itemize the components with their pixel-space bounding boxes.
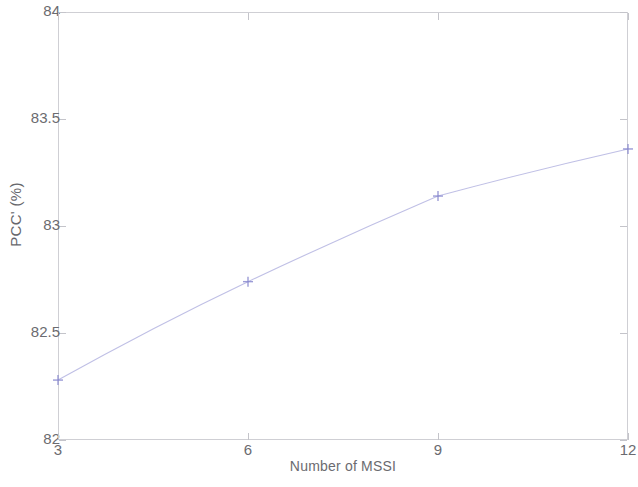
y-axis-title-text: PCC' (%) xyxy=(7,182,24,246)
data-point-marker xyxy=(243,277,253,287)
series-markers-pcc xyxy=(53,144,633,385)
y-tick-mark xyxy=(59,12,66,13)
y-tick-label: 83 xyxy=(43,217,60,232)
data-point-marker xyxy=(53,375,63,385)
x-tick-label: 3 xyxy=(54,442,62,457)
series-line-pcc xyxy=(58,149,628,380)
y-tick-mark-right xyxy=(620,12,627,13)
x-tick-mark xyxy=(438,433,439,440)
y-axis-title: PCC' (%) xyxy=(0,0,30,428)
x-tick-mark-top xyxy=(248,13,249,20)
x-tick-label: 9 xyxy=(434,442,442,457)
y-tick-mark-right xyxy=(620,119,627,120)
y-tick-label: 82.5 xyxy=(31,324,60,339)
x-tick-label: 6 xyxy=(244,442,252,457)
y-tick-mark-right xyxy=(620,226,627,227)
y-tick-mark xyxy=(59,333,66,334)
x-tick-mark-top xyxy=(628,13,629,20)
data-point-marker xyxy=(433,191,443,201)
y-tick-mark-right xyxy=(620,333,627,334)
series-line xyxy=(58,149,628,380)
data-point-marker xyxy=(623,144,633,154)
chart-figure: PCC' (%) 8282.58383.584 36912 Number of … xyxy=(0,0,638,487)
x-tick-mark xyxy=(58,433,59,440)
y-tick-mark xyxy=(59,226,66,227)
x-tick-mark xyxy=(248,433,249,440)
data-plot xyxy=(58,12,628,440)
x-tick-mark-top xyxy=(58,13,59,20)
y-tick-label: 83.5 xyxy=(31,110,60,125)
x-tick-mark xyxy=(628,433,629,440)
x-axis-title: Number of MSSI xyxy=(58,458,628,474)
y-tick-mark xyxy=(59,119,66,120)
x-tick-label: 12 xyxy=(620,442,637,457)
x-tick-mark-top xyxy=(438,13,439,20)
